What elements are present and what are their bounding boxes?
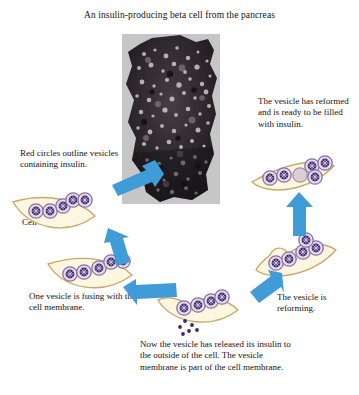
cycle-arrows [0,0,359,395]
arrow-to-released [123,279,177,305]
arrow-to-reformed [286,192,313,236]
figure-canvas: An insulin-producing beta cell from the … [0,0,359,395]
arrow-to-start [112,160,164,196]
arrow-to-reforming [250,270,284,303]
arrow-to-fusing [104,228,130,266]
